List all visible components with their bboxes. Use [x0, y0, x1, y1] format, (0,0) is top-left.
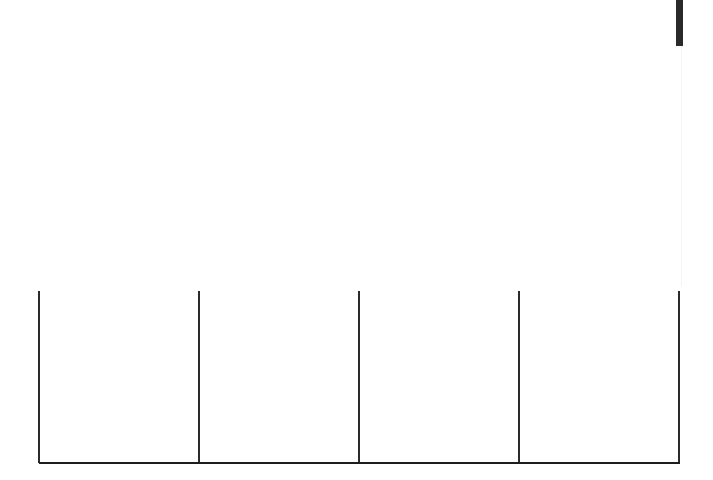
column-cell-3 — [361, 291, 519, 462]
divider-line-5 — [678, 291, 680, 463]
column-cell-2 — [201, 291, 359, 462]
divider-line-2 — [198, 291, 200, 463]
baseline — [39, 462, 680, 464]
column-cell-1 — [41, 291, 199, 462]
column-cell-4 — [521, 291, 679, 462]
divider-line-3 — [358, 291, 360, 463]
divider-line-4 — [518, 291, 520, 463]
divider-line-1 — [38, 291, 40, 463]
top-marker-bar — [676, 0, 683, 46]
faint-guide-line — [681, 46, 682, 286]
